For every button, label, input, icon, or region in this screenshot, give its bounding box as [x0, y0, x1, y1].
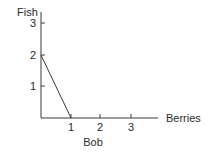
x-tick-label: 2: [97, 121, 103, 133]
chart-svg: 3 2 1 1 2 3 Fish Berries Bob: [0, 0, 214, 157]
y-ticks: 3 2 1: [30, 17, 45, 92]
ppf-line: [41, 55, 71, 118]
chart-subtitle: Bob: [83, 136, 103, 148]
chart: 3 2 1 1 2 3 Fish Berries Bob: [0, 0, 214, 157]
x-tick-label: 3: [128, 121, 134, 133]
y-tick-label: 1: [30, 80, 36, 92]
x-tick-label: 1: [68, 121, 74, 133]
y-axis-label: Fish: [17, 6, 38, 18]
x-ticks: 1 2 3: [68, 114, 134, 133]
y-tick-label: 2: [30, 49, 36, 61]
y-tick-label: 3: [30, 17, 36, 29]
x-axis-label: Berries: [166, 112, 201, 124]
